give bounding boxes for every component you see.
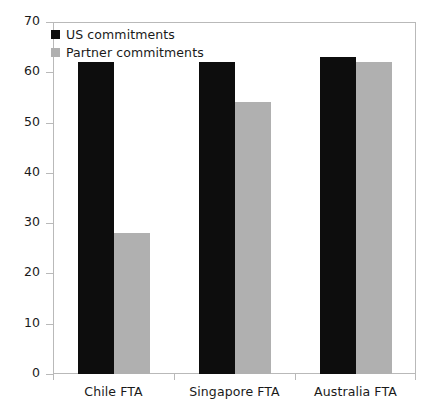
bar-partner [235, 102, 271, 374]
x-axis-tick-mark [53, 374, 54, 380]
x-axis-label: Australia FTA [295, 384, 416, 399]
x-axis-label: Chile FTA [53, 384, 174, 399]
y-axis-tick-mark [46, 173, 53, 174]
y-axis-tick-label: 70 [24, 13, 40, 28]
y-axis-tick-label: 10 [24, 315, 40, 330]
bar-us [320, 57, 356, 374]
y-axis-tick-mark [46, 273, 53, 274]
y-axis-tick-label: 50 [24, 114, 40, 129]
y-axis: 010203040506070 [0, 0, 53, 408]
legend-label: US commitments [66, 27, 175, 42]
legend-item: US commitments [51, 27, 204, 42]
bar-chart: 010203040506070 Chile FTASingapore FTAAu… [0, 0, 439, 408]
bars-layer [53, 22, 416, 374]
chart-legend: US commitmentsPartner commitments [51, 27, 204, 60]
legend-label: Partner commitments [66, 45, 204, 60]
y-axis-tick-mark [46, 324, 53, 325]
x-axis: Chile FTASingapore FTAAustralia FTA [53, 374, 416, 408]
y-axis-tick-mark [46, 223, 53, 224]
y-axis-tick-mark [46, 123, 53, 124]
y-axis-tick-label: 40 [24, 164, 40, 179]
x-axis-label: Singapore FTA [174, 384, 295, 399]
bar-us [78, 62, 114, 374]
y-axis-tick-mark [46, 22, 53, 23]
y-axis-tick-mark [46, 374, 53, 375]
legend-swatch-partner-icon [51, 48, 60, 57]
legend-item: Partner commitments [51, 45, 204, 60]
x-axis-tick-mark [415, 374, 416, 380]
x-axis-tick-mark [174, 374, 175, 380]
bar-us [199, 62, 235, 374]
y-axis-tick-label: 30 [24, 214, 40, 229]
y-axis-tick-label: 60 [24, 63, 40, 78]
bar-partner [114, 233, 150, 374]
y-axis-tick-label: 20 [24, 264, 40, 279]
legend-swatch-us-icon [51, 30, 60, 39]
y-axis-tick-label: 0 [32, 365, 40, 380]
y-axis-tick-mark [46, 72, 53, 73]
x-axis-tick-mark [295, 374, 296, 380]
bar-partner [356, 62, 392, 374]
